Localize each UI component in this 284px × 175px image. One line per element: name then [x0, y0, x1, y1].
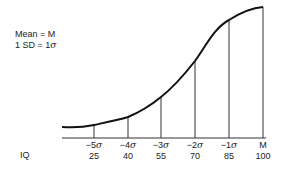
- sd-label: −2σ: [180, 140, 210, 150]
- sd-label: −3σ: [146, 140, 176, 150]
- iq-label: 55: [146, 151, 176, 161]
- iq-label: 100: [248, 151, 278, 161]
- iq-label: 85: [214, 151, 244, 161]
- sd-label: −4σ: [113, 140, 143, 150]
- iq-row-label: IQ: [20, 150, 30, 160]
- mean-label: M: [248, 140, 278, 150]
- cumulative-curve: [62, 7, 263, 127]
- sd-label: −1σ: [214, 140, 244, 150]
- iq-label: 25: [79, 151, 109, 161]
- sd-label: −5σ: [79, 140, 109, 150]
- iq-label: 70: [180, 151, 210, 161]
- iq-label: 40: [113, 151, 143, 161]
